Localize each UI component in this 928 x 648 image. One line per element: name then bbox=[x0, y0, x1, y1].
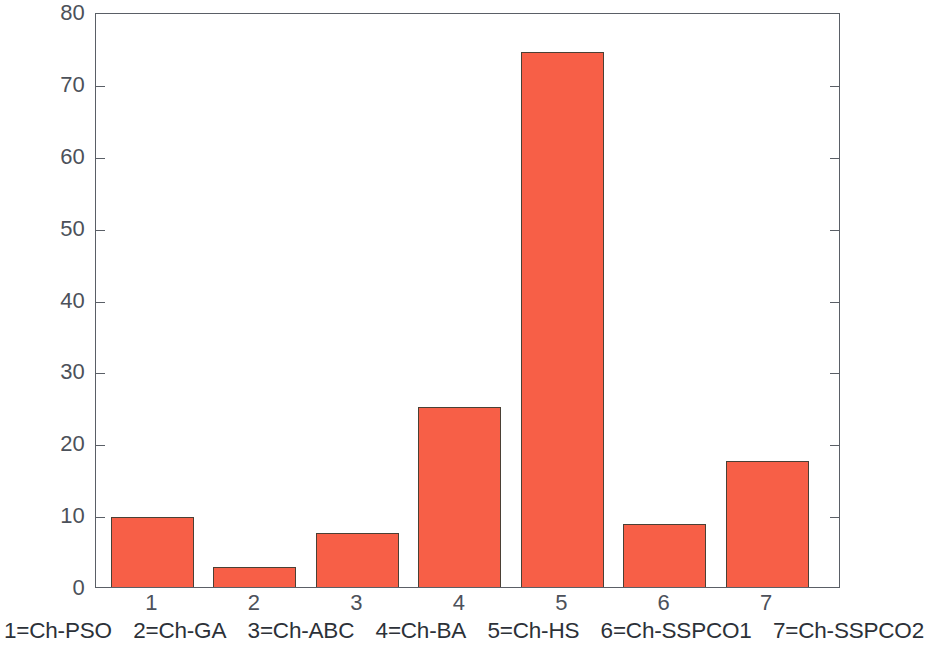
y-axis-tick-label: 40 bbox=[15, 290, 85, 312]
x-axis-tick-label: 6 bbox=[658, 592, 670, 614]
bar bbox=[726, 461, 809, 587]
legend-caption-item: 6=Ch-SSPCO1 bbox=[601, 618, 752, 644]
bar bbox=[213, 567, 296, 587]
bar bbox=[111, 517, 194, 587]
y-axis-tick-mark bbox=[830, 517, 839, 518]
y-axis-tick-mark bbox=[96, 158, 105, 159]
legend-caption-item: 2=Ch-GA bbox=[133, 618, 226, 644]
y-axis-tick-mark bbox=[830, 158, 839, 159]
legend-caption-item: 7=Ch-SSPCO2 bbox=[773, 618, 924, 644]
y-axis-tick-mark bbox=[830, 373, 839, 374]
y-axis-tick-mark bbox=[830, 302, 839, 303]
y-axis-tick-mark bbox=[96, 445, 105, 446]
legend-caption-item: 4=Ch-BA bbox=[376, 618, 467, 644]
y-axis-tick-label: 70 bbox=[15, 74, 85, 96]
x-axis-tick-label: 2 bbox=[248, 592, 260, 614]
y-axis-tick-mark bbox=[830, 86, 839, 87]
x-axis-tick-label: 1 bbox=[145, 592, 157, 614]
x-axis-tick-label: 3 bbox=[350, 592, 362, 614]
y-axis-tick-label: 80 bbox=[15, 2, 85, 24]
bar bbox=[521, 52, 604, 587]
y-axis-tick-mark bbox=[96, 373, 105, 374]
plot-area bbox=[95, 13, 840, 588]
legend-caption-item: 3=Ch-ABC bbox=[248, 618, 355, 644]
legend-caption-item: 5=Ch-HS bbox=[487, 618, 579, 644]
legend-caption: 1=Ch-PSO2=Ch-GA3=Ch-ABC4=Ch-BA5=Ch-HS6=C… bbox=[0, 618, 928, 644]
y-axis-tick-label: 20 bbox=[15, 433, 85, 455]
x-axis-tick-label: 5 bbox=[555, 592, 567, 614]
y-axis-tick-mark bbox=[96, 517, 105, 518]
y-axis-tick-mark bbox=[830, 445, 839, 446]
y-axis-tick-mark bbox=[96, 86, 105, 87]
y-axis-tick-label: 50 bbox=[15, 218, 85, 240]
y-axis-tick-label: 30 bbox=[15, 361, 85, 383]
bar-chart-figure: 01020304050607080 1234567 1=Ch-PSO2=Ch-G… bbox=[0, 0, 928, 648]
bar bbox=[418, 407, 501, 587]
bar bbox=[316, 533, 399, 587]
y-axis-tick-label: 10 bbox=[15, 505, 85, 527]
y-axis-tick-mark bbox=[96, 302, 105, 303]
y-axis-tick-label: 60 bbox=[15, 146, 85, 168]
y-axis-tick-mark bbox=[830, 230, 839, 231]
x-axis-tick-label: 4 bbox=[453, 592, 465, 614]
x-axis-tick-label: 7 bbox=[760, 592, 772, 614]
legend-caption-item: 1=Ch-PSO bbox=[4, 618, 112, 644]
bar bbox=[623, 524, 706, 587]
y-axis-tick-label: 0 bbox=[15, 577, 85, 599]
y-axis-tick-mark bbox=[96, 230, 105, 231]
